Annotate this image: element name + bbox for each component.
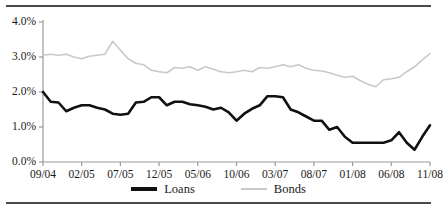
y-axis-tick-label: 4.0% (0, 16, 36, 28)
x-axis-tick-label: 02/05 (60, 169, 104, 181)
x-axis-ticks (43, 162, 430, 166)
chart-legend: Loans Bonds (0, 180, 437, 198)
x-axis-tick-label: 10/06 (215, 169, 259, 181)
bottom-horizontal-rule (6, 202, 431, 204)
y-axis-tick-label: 3.0% (0, 51, 36, 63)
x-axis-tick-label: 01/08 (331, 169, 375, 181)
x-axis-tick-label: 12/05 (137, 169, 181, 181)
legend-entry-loans: Loans (131, 183, 195, 196)
series-line-bonds (43, 41, 430, 87)
legend-swatch-loans-icon (131, 187, 157, 191)
legend-entry-bonds: Bonds (241, 183, 306, 196)
chart-svg (0, 12, 437, 172)
x-axis-tick-label: 11/08 (408, 169, 448, 181)
legend-label-loans: Loans (164, 183, 195, 196)
x-axis-tick-label: 08/07 (292, 169, 336, 181)
top-horizontal-rule (6, 5, 431, 7)
axis-group (39, 20, 430, 166)
y-axis-tick-label: 1.0% (0, 121, 36, 133)
data-series-group (43, 41, 430, 150)
legend-label-bonds: Bonds (274, 183, 306, 196)
plot-area: 0.0%1.0%2.0%3.0%4.0% 09/0402/0507/0512/0… (0, 12, 437, 172)
series-line-loans (43, 92, 430, 150)
y-axis-tick-label: 0.0% (0, 156, 36, 168)
legend-swatch-bonds-icon (241, 188, 267, 190)
y-axis-tick-label: 2.0% (0, 86, 36, 98)
x-axis-tick-label: 06/08 (369, 169, 413, 181)
x-axis-tick-label: 03/07 (253, 169, 297, 181)
x-axis-tick-label: 05/06 (176, 169, 220, 181)
x-axis-tick-label: 07/05 (98, 169, 142, 181)
x-axis-tick-label: 09/04 (21, 169, 65, 181)
